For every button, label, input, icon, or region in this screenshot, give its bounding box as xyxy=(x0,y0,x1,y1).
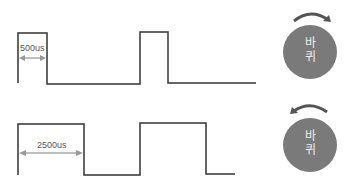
pulse-width-label-long: 2500us xyxy=(37,140,67,150)
pulse-width-arrow-long xyxy=(19,150,83,156)
rotation-arrow-counterclockwise-icon xyxy=(294,106,327,112)
pulse-width-arrow-short xyxy=(19,55,46,61)
wheel-label-top: 바 퀴 xyxy=(300,36,320,64)
wheel-label-line1: 바 xyxy=(300,36,320,50)
wheel-label-line1: 바 xyxy=(300,129,320,143)
pulse-width-label-short: 500us xyxy=(20,43,45,53)
wheel-label-line2: 퀴 xyxy=(300,143,320,157)
wheel-label-line2: 퀴 xyxy=(300,50,320,64)
diagram-canvas xyxy=(0,0,360,189)
rotation-arrow-clockwise-icon xyxy=(294,14,327,21)
pwm-signal-short xyxy=(18,32,256,84)
wheel-label-bottom: 바 퀴 xyxy=(300,129,320,157)
